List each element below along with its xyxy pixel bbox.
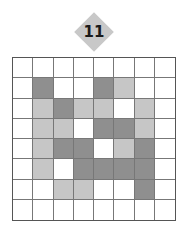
grid-cell[interactable] bbox=[94, 159, 114, 179]
grid-cell[interactable] bbox=[33, 159, 53, 179]
grid-cell[interactable] bbox=[114, 139, 134, 159]
grid-cell[interactable] bbox=[155, 99, 175, 119]
grid-cell[interactable] bbox=[13, 180, 33, 200]
grid-cell[interactable] bbox=[155, 119, 175, 139]
grid-cell[interactable] bbox=[54, 58, 74, 78]
grid-cell[interactable] bbox=[94, 99, 114, 119]
grid-cell[interactable] bbox=[54, 119, 74, 139]
grid-cell[interactable] bbox=[94, 78, 114, 98]
puzzle-number-badge: 11 bbox=[74, 12, 114, 52]
grid-cell[interactable] bbox=[114, 119, 134, 139]
grid-cell[interactable] bbox=[94, 119, 114, 139]
grid-cell[interactable] bbox=[135, 139, 155, 159]
grid-cell[interactable] bbox=[13, 200, 33, 220]
grid-cell[interactable] bbox=[94, 139, 114, 159]
grid-cell[interactable] bbox=[114, 78, 134, 98]
grid-cell[interactable] bbox=[114, 180, 134, 200]
grid-cell[interactable] bbox=[135, 180, 155, 200]
grid-cell[interactable] bbox=[54, 99, 74, 119]
grid-cell[interactable] bbox=[94, 58, 114, 78]
grid-cell[interactable] bbox=[33, 99, 53, 119]
grid-cell[interactable] bbox=[33, 119, 53, 139]
grid-cell[interactable] bbox=[54, 180, 74, 200]
grid-cell[interactable] bbox=[114, 58, 134, 78]
grid-cell[interactable] bbox=[74, 200, 94, 220]
grid-cell[interactable] bbox=[33, 180, 53, 200]
grid-cell[interactable] bbox=[135, 99, 155, 119]
grid-cell[interactable] bbox=[114, 200, 134, 220]
grid-cell[interactable] bbox=[135, 159, 155, 179]
grid-cell[interactable] bbox=[13, 99, 33, 119]
grid-cell[interactable] bbox=[94, 200, 114, 220]
grid-cell[interactable] bbox=[13, 119, 33, 139]
grid-cell[interactable] bbox=[155, 159, 175, 179]
grid-cell[interactable] bbox=[135, 58, 155, 78]
puzzle-grid bbox=[12, 57, 176, 221]
grid-cell[interactable] bbox=[13, 139, 33, 159]
grid-cell[interactable] bbox=[54, 159, 74, 179]
grid-cell[interactable] bbox=[74, 99, 94, 119]
grid-cell[interactable] bbox=[13, 78, 33, 98]
grid-cell[interactable] bbox=[135, 78, 155, 98]
grid-cell[interactable] bbox=[74, 119, 94, 139]
grid-cell[interactable] bbox=[155, 200, 175, 220]
grid-cell[interactable] bbox=[135, 119, 155, 139]
grid-cell[interactable] bbox=[33, 78, 53, 98]
grid-cell[interactable] bbox=[74, 139, 94, 159]
grid-cell[interactable] bbox=[135, 200, 155, 220]
grid-cell[interactable] bbox=[74, 78, 94, 98]
grid-cell[interactable] bbox=[33, 200, 53, 220]
grid-cell[interactable] bbox=[94, 180, 114, 200]
grid-cell[interactable] bbox=[54, 78, 74, 98]
grid-cell[interactable] bbox=[33, 139, 53, 159]
grid-cell[interactable] bbox=[155, 58, 175, 78]
puzzle-number: 11 bbox=[74, 12, 114, 52]
grid-cell[interactable] bbox=[114, 159, 134, 179]
grid-cell[interactable] bbox=[155, 139, 175, 159]
grid-cell[interactable] bbox=[13, 58, 33, 78]
grid-cell[interactable] bbox=[114, 99, 134, 119]
grid-cell[interactable] bbox=[13, 159, 33, 179]
grid-cell[interactable] bbox=[33, 58, 53, 78]
grid-cell[interactable] bbox=[155, 180, 175, 200]
grid-cell[interactable] bbox=[74, 58, 94, 78]
grid-cell[interactable] bbox=[74, 180, 94, 200]
grid-cell[interactable] bbox=[54, 139, 74, 159]
grid-cell[interactable] bbox=[155, 78, 175, 98]
grid-cell[interactable] bbox=[74, 159, 94, 179]
grid-cell[interactable] bbox=[54, 200, 74, 220]
